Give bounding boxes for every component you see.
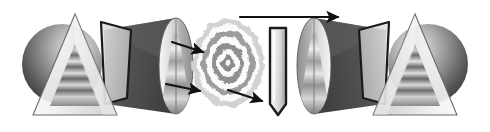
elliptical-beam-face-left [159, 18, 193, 114]
right-assembly [297, 14, 468, 115]
figure-canvas [0, 0, 490, 132]
optical-geometry-diagram [0, 0, 490, 132]
elliptical-beam-face-right [297, 18, 331, 114]
left-assembly [22, 14, 193, 115]
ring-core [225, 60, 230, 67]
concentric-diffraction-rings [192, 19, 264, 107]
vertical-crystal-prism-center [270, 28, 286, 115]
